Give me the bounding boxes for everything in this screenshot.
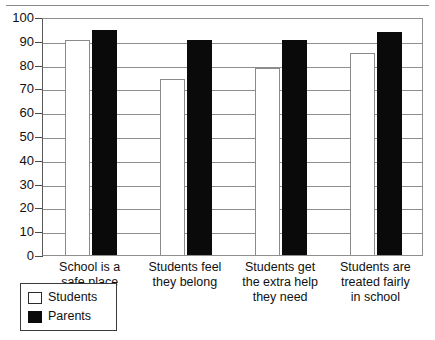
x-axis-label-line: School is a bbox=[35, 260, 145, 275]
x-axis-label-line: Students get bbox=[225, 260, 335, 275]
black-square-swatch-icon bbox=[28, 311, 42, 323]
y-tick-label-30: 30 bbox=[0, 178, 34, 191]
x-axis-label-4: Students aretreated fairlyin school bbox=[320, 260, 430, 305]
y-tick-label-10: 10 bbox=[0, 225, 34, 238]
legend-label-parents: Parents bbox=[48, 310, 91, 323]
y-tick-70 bbox=[35, 89, 42, 90]
y-tick-label-60: 60 bbox=[0, 106, 34, 119]
bar-parents-group-4 bbox=[377, 32, 402, 255]
x-axis-label-line: treated fairly bbox=[320, 275, 430, 290]
y-tick-80 bbox=[35, 66, 42, 67]
y-tick-label-20: 20 bbox=[0, 201, 34, 214]
bar-parents-group-1 bbox=[92, 30, 117, 255]
y-tick-10 bbox=[35, 232, 42, 233]
y-tick-20 bbox=[35, 208, 42, 209]
bar-students-group-3 bbox=[255, 68, 280, 255]
bar-parents-group-2 bbox=[187, 40, 212, 255]
bar-students-group-2 bbox=[160, 79, 185, 255]
y-tick-label-100: 100 bbox=[0, 11, 34, 24]
y-tick-label-80: 80 bbox=[0, 59, 34, 72]
y-tick-label-0: 0 bbox=[0, 249, 34, 262]
y-tick-90 bbox=[35, 42, 42, 43]
y-tick-60 bbox=[35, 113, 42, 114]
x-axis-label-line: in school bbox=[320, 290, 430, 305]
y-tick-label-90: 90 bbox=[0, 35, 34, 48]
y-tick-0 bbox=[35, 256, 42, 257]
bar-parents-group-3 bbox=[282, 40, 307, 255]
bar-students-group-1 bbox=[65, 40, 90, 255]
legend-item-students: Students bbox=[28, 288, 116, 307]
x-axis-label-line: Students feel bbox=[130, 260, 240, 275]
bar-chart-figure: 1009080706050403020100 School is asafe p… bbox=[0, 0, 435, 340]
y-tick-label-70: 70 bbox=[0, 82, 34, 95]
x-axis-label-line: the extra help bbox=[225, 275, 335, 290]
y-tick-100 bbox=[35, 18, 42, 19]
y-tick-label-40: 40 bbox=[0, 154, 34, 167]
chart-legend: Students Parents bbox=[20, 283, 117, 331]
page-top-rule bbox=[6, 5, 429, 6]
x-axis-label-3: Students getthe extra helpthey need bbox=[225, 260, 335, 305]
y-tick-label-50: 50 bbox=[0, 130, 34, 143]
x-axis-label-line: they need bbox=[225, 290, 335, 305]
legend-item-parents: Parents bbox=[28, 307, 116, 326]
y-tick-40 bbox=[35, 161, 42, 162]
legend-label-students: Students bbox=[48, 291, 97, 304]
bar-students-group-4 bbox=[350, 53, 375, 255]
y-tick-50 bbox=[35, 137, 42, 138]
white-square-swatch-icon bbox=[28, 292, 42, 304]
plot-area bbox=[42, 18, 423, 256]
x-axis-label-2: Students feelthey belong bbox=[130, 260, 240, 290]
x-axis-label-line: Students are bbox=[320, 260, 430, 275]
y-tick-30 bbox=[35, 185, 42, 186]
x-axis-label-line: they belong bbox=[130, 275, 240, 290]
